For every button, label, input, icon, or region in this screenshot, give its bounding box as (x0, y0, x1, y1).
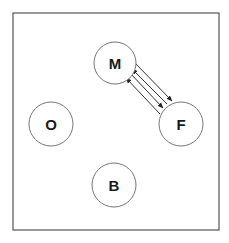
edge-m-to-f-1 (136, 64, 172, 101)
node-b-label: B (109, 177, 120, 194)
node-f: F (159, 102, 203, 146)
node-o: O (29, 102, 73, 146)
node-b: B (92, 163, 136, 207)
node-f-label: F (176, 116, 185, 133)
node-m-label: M (109, 55, 122, 72)
edge-m-to-f-2 (130, 73, 163, 108)
node-o-label: O (45, 116, 57, 133)
node-m: M (94, 42, 136, 84)
edge-f-to-m-1 (132, 69, 167, 104)
diagram-canvas: M F O B (0, 0, 229, 243)
